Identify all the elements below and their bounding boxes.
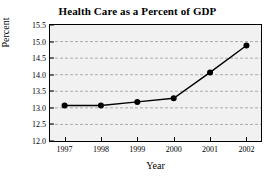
x-tick-label: 2002 xyxy=(238,145,254,154)
series-line xyxy=(65,46,247,106)
y-tick-label: 15.0 xyxy=(32,37,46,46)
y-tick-mark xyxy=(50,41,54,42)
x-tick-mark xyxy=(137,137,138,141)
y-tick-label: 15.5 xyxy=(32,21,46,30)
y-tick-label: 13.5 xyxy=(32,87,46,96)
y-tick-label: 12.5 xyxy=(32,120,46,129)
chart-title: Health Care as a Percent of GDP xyxy=(0,5,275,17)
data-point-marker xyxy=(98,103,104,109)
data-point-marker xyxy=(62,103,68,109)
y-tick-label: 13.0 xyxy=(32,103,46,112)
x-tick-mark xyxy=(210,137,211,141)
y-tick-label: 14.0 xyxy=(32,70,46,79)
x-tick-mark xyxy=(65,137,66,141)
x-tick-label: 2000 xyxy=(166,145,182,154)
y-tick-mark xyxy=(50,107,54,108)
y-axis-label: Percent xyxy=(0,1,11,65)
y-tick-mark xyxy=(50,58,54,59)
x-tick-mark xyxy=(174,137,175,141)
plot-area: 12.012.513.013.514.014.515.015.5 1997199… xyxy=(49,24,262,142)
chart-figure: Health Care as a Percent of GDP Percent … xyxy=(0,0,275,179)
data-point-marker xyxy=(243,43,249,49)
x-tick-label: 2001 xyxy=(202,145,218,154)
x-tick-label: 1999 xyxy=(129,145,145,154)
x-axis-label: Year xyxy=(49,160,262,171)
data-point-marker xyxy=(171,95,177,101)
x-tick-mark xyxy=(246,137,247,141)
y-tick-label: 12.0 xyxy=(32,137,46,146)
y-tick-mark xyxy=(50,141,54,142)
y-tick-label: 14.5 xyxy=(32,54,46,63)
data-series-line xyxy=(50,25,261,141)
x-tick-label: 1997 xyxy=(57,145,73,154)
data-point-marker xyxy=(207,69,213,75)
y-tick-mark xyxy=(50,74,54,75)
data-point-marker xyxy=(134,99,140,105)
x-tick-mark xyxy=(101,137,102,141)
y-tick-mark xyxy=(50,124,54,125)
y-tick-mark xyxy=(50,25,54,26)
x-tick-label: 1998 xyxy=(93,145,109,154)
y-tick-mark xyxy=(50,91,54,92)
